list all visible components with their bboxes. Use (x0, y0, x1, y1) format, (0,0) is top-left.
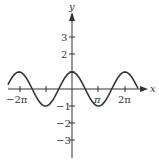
y-axis-label: y (68, 1, 75, 12)
x-axis-arrow-icon (140, 86, 148, 92)
y-tick-label-3: 3 (61, 32, 67, 43)
y-tick-label-neg3: −3 (56, 135, 71, 146)
y-tick-label-2: 2 (61, 49, 67, 60)
y-axis-arrow-icon (69, 12, 75, 21)
y-tick-label-neg2: −2 (56, 118, 71, 129)
cosine-graph: x y −2π π 2π 3 2 −1 −2 −3 (0, 0, 159, 160)
x-tick-label-2pi: 2π (118, 94, 131, 105)
x-tick-label-neg-2pi: −2π (6, 94, 28, 105)
y-tick-label-neg1: −1 (56, 101, 71, 112)
x-axis-label: x (150, 83, 156, 94)
